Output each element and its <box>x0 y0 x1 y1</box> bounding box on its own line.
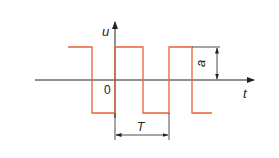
period-label: T <box>137 120 146 134</box>
amplitude-label: a <box>193 60 208 67</box>
square-wave-diagram: u t 0 T a <box>0 0 279 158</box>
origin-label: 0 <box>104 83 111 97</box>
x-axis-label: t <box>243 86 248 101</box>
y-axis-label: u <box>102 24 109 39</box>
